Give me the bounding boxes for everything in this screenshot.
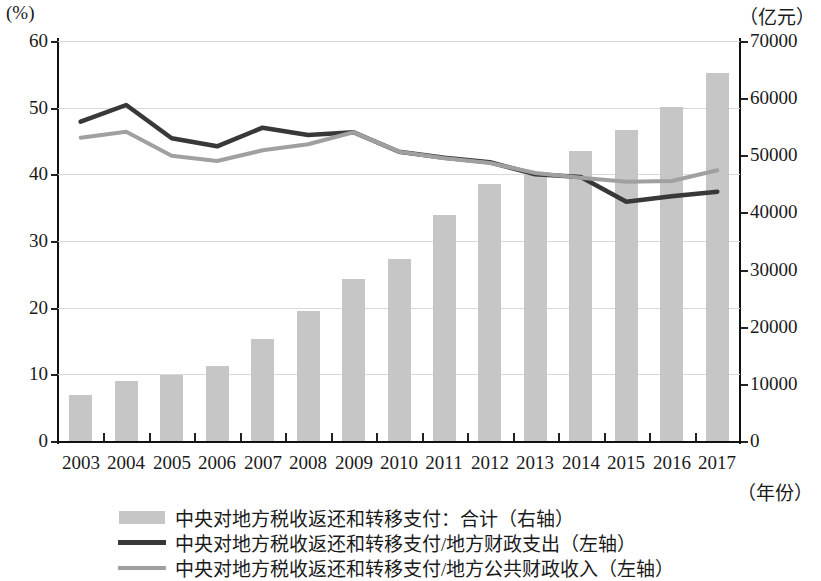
x-axis-tick <box>513 433 515 441</box>
legend-swatch-line-gray <box>118 566 166 570</box>
legend-swatch-container <box>117 511 167 524</box>
line-series <box>58 41 740 441</box>
right-axis-tick-label: 70000 <box>750 31 798 50</box>
legend-swatch-container <box>117 566 167 570</box>
x-axis-tick-label: 2004 <box>101 452 151 474</box>
x-axis-tick <box>649 433 651 441</box>
x-axis-tick <box>149 433 151 441</box>
x-axis-tick-label: 2003 <box>56 452 106 474</box>
x-axis-tick-label: 2007 <box>238 452 288 474</box>
chart-figure: (%) （亿元） 0102030405060 01000020000300004… <box>0 0 821 581</box>
right-axis-tick <box>741 270 748 272</box>
x-axis-tick-label: 2015 <box>601 452 651 474</box>
left-axis-tick-label: 0 <box>39 431 49 450</box>
x-axis-tick-label: 2006 <box>192 452 242 474</box>
x-axis-tick <box>376 433 378 441</box>
right-axis-unit-label: （亿元） <box>739 2 815 29</box>
x-axis-tick <box>194 433 196 441</box>
right-axis-tick-label: 60000 <box>750 88 798 107</box>
left-axis-tick <box>51 108 58 110</box>
legend-swatch-bar <box>119 511 165 524</box>
x-axis-tick <box>240 433 242 441</box>
right-axis-tick <box>741 327 748 329</box>
x-axis-tick-label: 2016 <box>647 452 697 474</box>
x-axis-tick-label: 2017 <box>692 452 742 474</box>
x-axis-unit-label: （年份） <box>737 478 813 505</box>
left-axis-tick-label: 20 <box>29 298 48 317</box>
left-axis-tick <box>51 174 58 176</box>
right-axis-tick <box>741 98 748 100</box>
legend-label: 中央对地方税收返还和转移支付/地方财政支出（左轴） <box>175 529 636 556</box>
x-axis-tick-label: 2012 <box>465 452 515 474</box>
left-axis-tick-label: 30 <box>29 231 48 250</box>
right-axis-tick <box>741 384 748 386</box>
x-axis-tick-label: 2010 <box>374 452 424 474</box>
x-axis-tick <box>695 433 697 441</box>
legend-label: 中央对地方税收返还和转移支付：合计（右轴） <box>175 504 574 531</box>
left-axis-tick <box>51 374 58 376</box>
x-axis-tick-label: 2005 <box>147 452 197 474</box>
right-axis-tick-label: 40000 <box>750 202 798 221</box>
legend-swatch-line-dark <box>118 540 166 545</box>
x-axis-tick <box>467 433 469 441</box>
left-axis-tick <box>51 308 58 310</box>
right-axis-tick <box>741 212 748 214</box>
x-axis-tick-label: 2013 <box>510 452 560 474</box>
left-axis-tick <box>51 241 58 243</box>
right-axis-tick-label: 30000 <box>750 260 798 279</box>
x-axis-tick <box>103 433 105 441</box>
x-axis-tick <box>285 433 287 441</box>
x-axis-line <box>57 441 741 443</box>
left-axis-tick <box>51 41 58 43</box>
x-axis-tick <box>422 433 424 441</box>
right-axis-tick-label: 20000 <box>750 317 798 336</box>
right-axis-tick-label: 10000 <box>750 374 798 393</box>
right-axis-tick-label: 50000 <box>750 145 798 164</box>
legend-item: 中央对地方税收返还和转移支付/地方财政支出（左轴） <box>0 530 821 555</box>
chart-legend: 中央对地方税收返还和转移支付：合计（右轴）中央对地方税收返还和转移支付/地方财政… <box>0 505 821 580</box>
left-axis-tick-label: 10 <box>29 364 48 383</box>
right-axis-tick-label: 0 <box>750 431 760 450</box>
right-axis-tick <box>741 441 748 443</box>
legend-item: 中央对地方税收返还和转移支付：合计（右轴） <box>0 505 821 530</box>
left-axis-tick <box>51 441 58 443</box>
x-axis-tick <box>604 433 606 441</box>
legend-item: 中央对地方税收返还和转移支付/地方公共财政收入（左轴） <box>0 555 821 580</box>
x-axis-tick-label: 2009 <box>329 452 379 474</box>
right-axis-tick <box>741 41 748 43</box>
x-axis-tick <box>558 433 560 441</box>
left-axis-tick-label: 40 <box>29 164 48 183</box>
left-axis-tick-label: 50 <box>29 98 48 117</box>
legend-label: 中央对地方税收返还和转移支付/地方公共财政收入（左轴） <box>175 554 674 581</box>
x-axis-tick <box>331 433 333 441</box>
right-axis-tick <box>741 155 748 157</box>
x-axis-tick-label: 2014 <box>556 452 606 474</box>
left-axis-unit-label: (%) <box>6 2 34 24</box>
legend-swatch-container <box>117 540 167 545</box>
left-axis-tick-label: 60 <box>29 31 48 50</box>
x-axis-tick-label: 2011 <box>419 452 469 474</box>
x-axis-tick-label: 2008 <box>283 452 333 474</box>
